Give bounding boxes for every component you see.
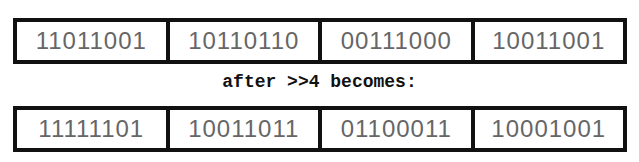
shift-caption: after >>4 becomes:	[0, 72, 639, 92]
original-bytes-row: 11011001 10110110 00111000 10011001	[13, 18, 627, 64]
byte-cell: 11111101	[17, 110, 170, 148]
byte-cell: 00111000	[322, 22, 475, 60]
shifted-bytes-row: 11111101 10011011 01100011 10001001	[13, 106, 627, 152]
byte-cell: 10011001	[475, 22, 624, 60]
byte-cell: 11011001	[17, 22, 170, 60]
byte-cell: 10110110	[170, 22, 323, 60]
byte-cell: 01100011	[322, 110, 475, 148]
byte-cell: 10011011	[170, 110, 323, 148]
byte-cell: 10001001	[475, 110, 624, 148]
